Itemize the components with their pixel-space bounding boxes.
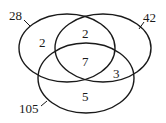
region-left-right: 2 — [82, 26, 89, 41]
region-all-three: 7 — [82, 54, 89, 69]
region-bottom-only: 5 — [82, 89, 89, 104]
left-set-total-label: 28 — [9, 8, 22, 23]
region-left-only: 2 — [39, 35, 46, 50]
bottom-set-leader-line — [41, 101, 47, 106]
left-set-ellipse — [19, 14, 115, 82]
venn-diagram: 28 42 105 2 2 7 3 5 — [0, 0, 166, 123]
left-set-leader-line — [24, 20, 30, 26]
right-set-ellipse — [55, 14, 151, 82]
right-set-total-label: 42 — [143, 10, 156, 25]
region-right-bottom: 3 — [113, 66, 120, 81]
bottom-set-total-label: 105 — [19, 101, 39, 116]
